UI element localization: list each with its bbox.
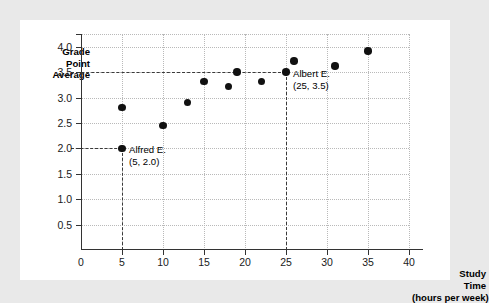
y-axis-tick: [76, 148, 82, 149]
x-axis-tick-label: 25: [280, 256, 292, 268]
reference-line-horizontal: [71, 72, 286, 73]
annotation-name: Alfred E.: [129, 144, 166, 156]
y-axis-tick: [76, 225, 82, 226]
reference-line-vertical: [286, 72, 287, 250]
x-axis-tick-label: 10: [157, 256, 169, 268]
data-point: [282, 68, 290, 76]
x-axis-tick: [327, 249, 328, 255]
y-axis-tick-label: 1.0: [57, 193, 72, 205]
x-axis-tick-label: 15: [198, 256, 210, 268]
plot-area: 0.51.01.52.02.53.03.54.0 051015202530354…: [81, 34, 409, 250]
y-axis-tick-label: 4.0: [57, 41, 72, 53]
y-axis-tick: [76, 34, 82, 35]
gridline-vertical: [409, 34, 410, 250]
y-axis-tick-label: 0.5: [57, 219, 72, 231]
gridline-vertical: [327, 34, 328, 250]
annotation-alfred-e: Alfred E.(5, 2.0): [129, 144, 166, 167]
gridline-horizontal: [81, 47, 409, 48]
y-axis-tick: [76, 123, 82, 124]
gridline-horizontal: [81, 199, 409, 200]
gridline-horizontal: [81, 98, 409, 99]
x-axis-title-line-3: (hours per week): [412, 292, 486, 303]
x-axis-tick-label: 5: [119, 256, 125, 268]
data-point: [364, 47, 372, 55]
data-point: [159, 122, 167, 130]
y-axis-tick-label: 3.5: [57, 66, 72, 78]
x-axis-tick-label: 20: [239, 256, 251, 268]
chart-panel: Grade Point Average Study Time (hours pe…: [20, 20, 450, 280]
y-axis-tick-label: 3.0: [57, 92, 72, 104]
data-point: [118, 104, 126, 112]
gridline-horizontal: [81, 123, 409, 124]
x-axis-tick-label: 35: [362, 256, 374, 268]
y-axis-line: [81, 34, 82, 250]
x-axis-tick: [122, 249, 123, 255]
x-axis-tick: [245, 249, 246, 255]
data-point: [200, 78, 208, 86]
x-axis-tick: [286, 249, 287, 255]
x-axis-line: [81, 249, 423, 250]
x-axis-tick-label: 30: [321, 256, 333, 268]
gridline-horizontal: [81, 34, 409, 35]
data-point: [233, 68, 241, 76]
annotation-coords: (5, 2.0): [129, 156, 166, 168]
x-axis-title-line-2: Time: [412, 280, 486, 292]
reference-line-vertical: [122, 148, 123, 250]
data-point: [331, 62, 339, 70]
y-axis-tick: [76, 72, 82, 73]
x-axis-tick-label: 0: [78, 256, 84, 268]
x-axis-tick: [163, 249, 164, 255]
annotation-name: Albert E.: [293, 68, 330, 80]
x-axis-tick: [204, 249, 205, 255]
gridline-horizontal: [81, 225, 409, 226]
annotation-albert-e: Albert E.(25, 3.5): [293, 68, 330, 91]
gridline-vertical: [204, 34, 205, 250]
y-axis-tick: [76, 47, 82, 48]
y-axis-tick: [76, 174, 82, 175]
data-point: [184, 99, 192, 107]
y-axis-tick-label: 2.0: [57, 142, 72, 154]
gridline-vertical: [245, 34, 246, 250]
annotation-coords: (25, 3.5): [293, 80, 330, 92]
data-point: [225, 83, 233, 91]
x-axis-tick: [368, 249, 369, 255]
y-axis-tick: [76, 98, 82, 99]
data-point: [258, 78, 266, 86]
data-point: [118, 145, 126, 153]
gridline-horizontal: [81, 174, 409, 175]
x-axis-title: Study Time (hours per week): [412, 268, 486, 303]
gridline-vertical: [368, 34, 369, 250]
y-axis-tick-label: 2.5: [57, 117, 72, 129]
x-axis-title-line-1: Study: [412, 268, 486, 280]
gridline-vertical: [163, 34, 164, 250]
data-point: [290, 57, 298, 65]
x-axis-tick: [409, 249, 410, 255]
y-axis-tick: [76, 199, 82, 200]
x-axis-tick-label: 40: [403, 256, 415, 268]
y-axis-tick-label: 1.5: [57, 168, 72, 180]
